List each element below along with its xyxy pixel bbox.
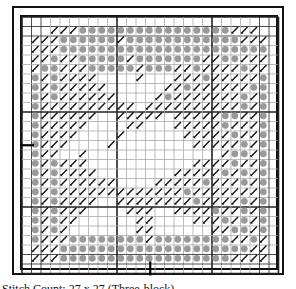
chart-caption: Stitch Count: 27 x 27 (Three-block): [2, 282, 174, 289]
stitch-grid: [0, 0, 296, 289]
